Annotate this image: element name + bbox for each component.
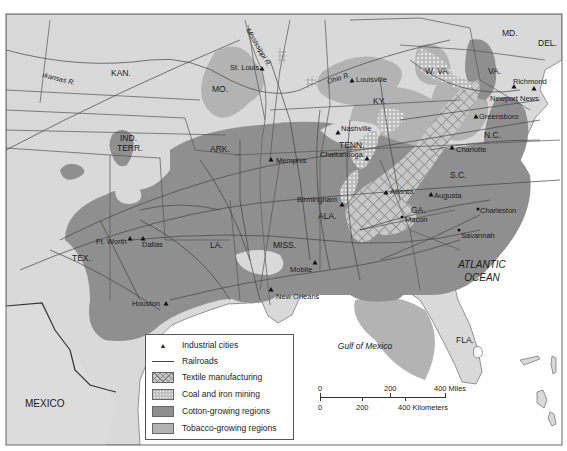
scale-line [320, 397, 446, 398]
state-label-mo: MO. [212, 84, 228, 94]
city-label: Charlotte [456, 145, 486, 154]
legend-label: Cotton-growing regions [182, 406, 270, 416]
legend-item-cotton: Cotton-growing regions [152, 404, 270, 418]
city-label: Newport News [490, 94, 539, 103]
legend-item-railroads: Railroads [152, 354, 218, 368]
city-label: Mobile [290, 265, 312, 274]
scale-km-400: 400 Kilometers [398, 403, 448, 412]
legend-label: Tobacco-growing regions [182, 423, 277, 433]
dark-gray-swatch-icon [152, 406, 174, 417]
gulf-label: Gulf of Mexico [338, 341, 393, 351]
city-label: Ft. Worth [96, 237, 127, 246]
scale-km-200: 200 [356, 403, 369, 412]
legend-item-industrial-cities: ▲ Industrial cities [152, 338, 238, 352]
state-label-nc: N.C. [484, 130, 501, 140]
dot-icon [401, 216, 404, 219]
city-label: Richmond [513, 77, 547, 86]
state-label-ala: ALA. [318, 211, 336, 221]
legend-label: Railroads [182, 356, 218, 366]
city-label: Greensboro [479, 112, 519, 121]
state-label-tex: TEX. [72, 253, 91, 263]
city-label: Dallas [142, 240, 163, 249]
state-label-ky: KY. [373, 96, 386, 106]
legend-label: Coal and iron mining [182, 389, 260, 399]
city-label: Savannah [461, 231, 495, 240]
state-label-ind-terr-1: IND. [120, 133, 137, 143]
state-label-sc: S.C. [450, 170, 467, 180]
state-label-del: DEL. [538, 38, 557, 48]
state-label-ind-terr-2: TERR. [117, 143, 143, 153]
legend-label: Textile manufacturing [182, 372, 262, 382]
scale-miles-400: 400 Miles [434, 384, 466, 393]
city-label: Charleston [480, 206, 516, 215]
city-label: Atlanta [390, 187, 414, 196]
scale-miles-0: 0 [318, 384, 322, 393]
city-label: Augusta [434, 191, 462, 200]
state-label-ark: ARK. [210, 144, 230, 154]
triangle-icon: ▲ [152, 342, 174, 349]
state-label-md: MD. [502, 28, 518, 38]
city-label: Memphis [276, 156, 307, 165]
city-label: St. Louis [230, 63, 259, 72]
city-label: Birmingham [297, 195, 337, 204]
scale-miles-200: 200 [384, 384, 397, 393]
city-label: New Orleans [276, 292, 320, 301]
map-legend: ▲ Industrial cities Railroads Textile ma… [145, 334, 294, 440]
state-label-tenn: TENN. [339, 140, 365, 150]
line-icon [152, 361, 174, 362]
scale-km-0: 0 [318, 403, 322, 412]
city-label: Houston [132, 299, 160, 308]
atlantic-label-1: ATLANTIC [457, 259, 506, 270]
dotted-swatch-icon [152, 389, 174, 400]
state-label-ga: GA. [411, 205, 426, 215]
light-gray-swatch-icon [152, 423, 174, 434]
city-label: Louisville [356, 75, 387, 84]
atlantic-label-2: OCEAN [464, 272, 500, 283]
legend-label: Industrial cities [182, 340, 238, 350]
state-label-la: LA. [210, 240, 223, 250]
crosshatch-swatch-icon [152, 372, 174, 383]
mexico-label: MEXICO [25, 398, 65, 409]
state-label-miss: MISS. [273, 240, 296, 250]
city-label: Macon [405, 215, 428, 224]
state-label-fla: FLA. [456, 335, 474, 345]
state-label-wva: W. VA. [425, 66, 450, 76]
state-label-va: VA. [488, 66, 501, 76]
legend-item-coal-iron: Coal and iron mining [152, 387, 260, 401]
scale-bar: 0 200 400 Miles 0 200 400 Kilometers [318, 384, 488, 434]
state-label-kan: KAN. [111, 68, 131, 78]
legend-item-tobacco: Tobacco-growing regions [152, 421, 277, 435]
legend-item-textile: Textile manufacturing [152, 370, 262, 384]
city-label: Chattanooga [320, 150, 364, 159]
city-label: Nashville [341, 124, 371, 133]
